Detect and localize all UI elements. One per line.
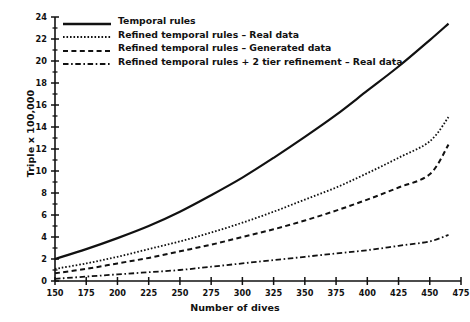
legend-item: Refined temporal rules + 2 tier refineme… [62, 55, 392, 69]
x-tick-label: 450 [413, 288, 447, 298]
x-tick-label: 400 [350, 288, 384, 298]
legend-swatch-dotted-icon [62, 28, 112, 40]
series-line-2 [55, 145, 449, 274]
x-tick-label: 325 [257, 288, 291, 298]
x-tick-label: 175 [69, 288, 103, 298]
chart-legend: Temporal rulesRefined temporal rules – R… [62, 14, 392, 68]
y-tick-label: 22 [25, 34, 47, 44]
x-tick-label: 225 [132, 288, 166, 298]
legend-swatch-solid-icon [62, 15, 112, 27]
x-tick-label: 150 [38, 288, 72, 298]
series-line-1 [55, 117, 449, 269]
x-tick-label: 275 [194, 288, 228, 298]
x-tick-label: 300 [225, 288, 259, 298]
x-axis-title: Number of dives [0, 302, 470, 313]
y-tick-label: 2 [25, 254, 47, 264]
x-tick-label: 475 [444, 288, 470, 298]
y-tick-label: 0 [25, 276, 47, 286]
y-tick-label: 20 [25, 56, 47, 66]
y-tick-label: 4 [25, 232, 47, 242]
x-tick-label: 200 [100, 288, 134, 298]
y-tick-label: 6 [25, 210, 47, 220]
legend-label: Refined temporal rules – Real data [118, 30, 299, 39]
legend-label: Temporal rules [118, 16, 196, 25]
legend-swatch-dashdot-icon [62, 55, 112, 67]
legend-item: Refined temporal rules – Generated data [62, 41, 392, 55]
legend-swatch-dashed-icon [62, 42, 112, 54]
x-tick-label: 425 [382, 288, 416, 298]
y-axis-title: Triple x 100,000 [25, 74, 36, 194]
chart-container: 024681012141618202224 150175200225250275… [0, 0, 470, 322]
x-tick-label: 350 [288, 288, 322, 298]
legend-label: Refined temporal rules – Generated data [118, 43, 331, 52]
x-tick-label: 250 [163, 288, 197, 298]
legend-item: Temporal rules [62, 14, 392, 28]
legend-label: Refined temporal rules + 2 tier refineme… [118, 57, 403, 66]
y-tick-label: 24 [25, 12, 47, 22]
x-tick-label: 375 [319, 288, 353, 298]
legend-item: Refined temporal rules – Real data [62, 28, 392, 42]
